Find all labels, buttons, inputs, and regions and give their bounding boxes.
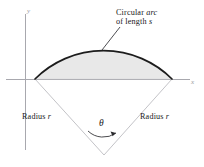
circular-arc-label-line1: Circular arc bbox=[116, 8, 157, 17]
figure-canvas bbox=[0, 0, 204, 167]
circular-segment-fill bbox=[35, 51, 172, 79]
theta-angle-label: θ bbox=[99, 118, 104, 129]
arc-leader-line bbox=[102, 27, 120, 50]
radius-left-label: Radius r bbox=[22, 112, 51, 121]
circular-sector-figure: Circular arc of length s Radius r Radius… bbox=[0, 0, 204, 167]
y-axis-label: y bbox=[27, 8, 30, 16]
x-axis-label: x bbox=[191, 79, 194, 87]
radius-right-label: Radius r bbox=[140, 112, 169, 121]
circular-arc-label: Circular arc of length s bbox=[116, 8, 157, 26]
circular-arc-label-line2: of length s bbox=[116, 17, 157, 26]
